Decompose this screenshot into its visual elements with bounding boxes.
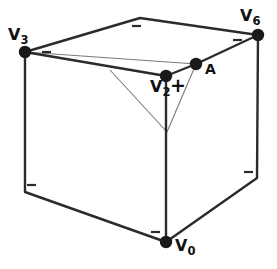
edge-a-v6 [196, 35, 258, 64]
vertex-label-v3: V3 [8, 27, 28, 47]
cube-diagram: V3 V6 V2 V0 A + [0, 0, 277, 269]
vertex-label-v0-sub: 0 [187, 244, 195, 258]
vertex-label-v6-sub: 6 [252, 14, 260, 28]
vertex-label-a: A [205, 62, 216, 76]
edge-v3-v2 [25, 52, 166, 76]
vertex-label-v2-text: V [150, 77, 162, 96]
vertex-label-v6-text: V [240, 6, 252, 25]
vertex-dot-v0 [160, 236, 172, 248]
plus-sign-marker: + [170, 76, 186, 95]
vertex-dots [19, 29, 264, 248]
vertex-dot-v6 [252, 29, 264, 41]
vertex-label-v6: V6 [240, 8, 260, 28]
vertex-dot-a [190, 58, 202, 70]
thin-line-v3-to-a [25, 52, 196, 64]
vertex-label-v2: V2 [150, 79, 170, 99]
vertex-label-v0-text: V [175, 236, 187, 255]
cube-drawing-canvas [0, 0, 277, 269]
vertex-label-v0: V0 [175, 238, 195, 258]
cube-interior-edges [25, 35, 258, 242]
vertex-dot-v3 [19, 46, 31, 58]
vertex-label-v3-text: V [8, 25, 20, 44]
vertex-label-v3-sub: 3 [20, 33, 28, 47]
